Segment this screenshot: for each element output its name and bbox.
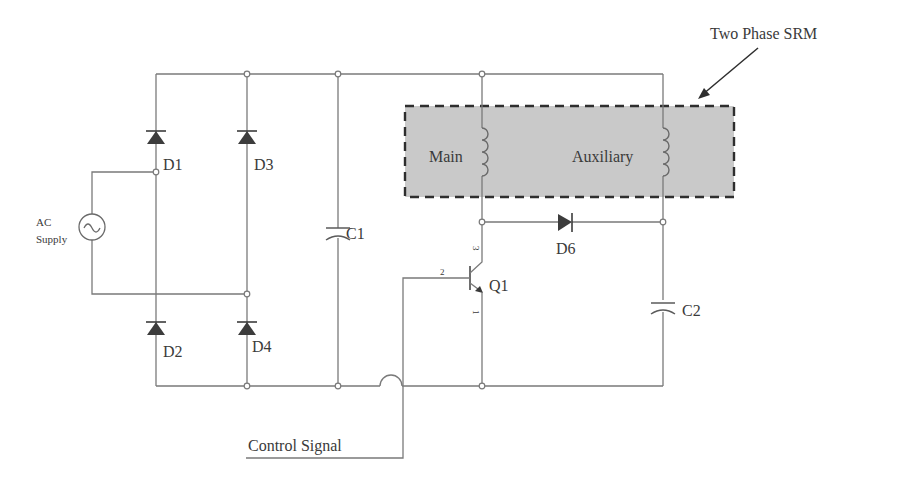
q1-label: Q1: [489, 277, 509, 294]
q1-pin-collector: 3: [471, 246, 481, 251]
control-signal-wire: [246, 278, 470, 458]
d1-label: D1: [163, 156, 183, 173]
diode-d1-icon: [146, 131, 166, 144]
c1-label: C1: [346, 225, 365, 242]
wire-crossover-hop: [380, 375, 402, 386]
diode-d6-icon: [558, 213, 572, 232]
diode-d3-icon: [237, 131, 257, 144]
srm-title: Two Phase SRM: [710, 25, 817, 42]
diode-d2-icon: [146, 322, 166, 335]
d2-label: D2: [163, 343, 183, 360]
srm-arrow-icon: [698, 48, 758, 99]
schematic: Two Phase SRM AC Supply D1 D3 D2 D4 C1 C…: [0, 0, 900, 484]
main-winding-label: Main: [429, 148, 463, 165]
d4-label: D4: [252, 338, 272, 355]
c2-label: C2: [682, 302, 701, 319]
ac-supply-label-1: AC: [36, 216, 51, 228]
circuit-diagram: Two Phase SRM AC Supply D1 D3 D2 D4 C1 C…: [0, 0, 900, 484]
transistor-q1-icon: [470, 248, 483, 293]
diode-d4-icon: [237, 322, 257, 335]
ac-wire-top: [92, 172, 156, 214]
ac-supply-label-2: Supply: [36, 233, 68, 245]
ac-wire-bottom: [92, 240, 247, 294]
d6-label: D6: [556, 240, 576, 257]
q1-pin-base: 2: [440, 267, 445, 277]
q1-pin-emitter: 1: [471, 310, 481, 315]
control-signal-label: Control Signal: [248, 437, 342, 455]
d3-label: D3: [254, 156, 274, 173]
ac-source-icon: [79, 214, 105, 240]
aux-winding-label: Auxiliary: [572, 148, 633, 166]
